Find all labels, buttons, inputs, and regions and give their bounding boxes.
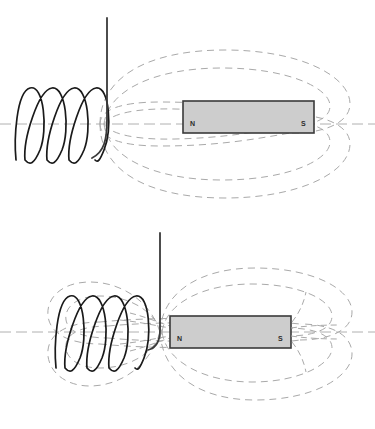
physics-diagram: N S <box>0 0 375 429</box>
electromagnetic-induction-figure: N S <box>0 0 375 429</box>
bar-magnet <box>183 101 314 133</box>
magnet-south-label: S <box>278 335 283 342</box>
panel-coil-touching-magnet: N S <box>0 233 375 400</box>
solenoid-coil <box>15 88 108 163</box>
magnet-north-label: N <box>190 120 195 127</box>
panel-coil-separated-from-magnet: N S <box>0 18 375 198</box>
magnet-south-label: S <box>301 120 306 127</box>
bar-magnet <box>170 316 291 348</box>
magnet-north-label: N <box>177 335 182 342</box>
